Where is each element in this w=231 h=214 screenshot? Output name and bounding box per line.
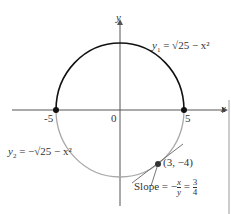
- point-3-neg4: [155, 161, 161, 167]
- tick-5: 5: [185, 113, 191, 124]
- upper-curve-label: y1 = √25 − x²: [152, 40, 210, 54]
- y-axis-label: y: [116, 12, 121, 23]
- point-neg5: [53, 107, 59, 113]
- point-label: (3, −4): [163, 157, 193, 168]
- tick-neg5: -5: [44, 113, 53, 124]
- lower-curve-label: y2 = −√25 − x²: [8, 146, 72, 160]
- x-axis-label: x: [221, 103, 226, 114]
- tick-0: 0: [111, 113, 117, 124]
- slope-label: Slope = −xy = 34: [134, 178, 197, 197]
